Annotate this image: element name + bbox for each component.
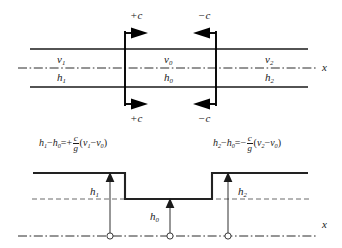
wave-arrow-bottom-left	[125, 99, 148, 110]
eq-right-sign: −	[240, 137, 246, 148]
wave-arrow-bottom-right	[193, 99, 216, 110]
eq-left-numerator: c	[73, 134, 80, 143]
datum-marker	[167, 233, 173, 239]
wave-arrow-top-left	[125, 28, 148, 39]
eq-right-fraction-c-over-g: cg	[247, 134, 254, 154]
depth-subscript-0: 0	[170, 77, 173, 84]
eq-right-h0-base: h	[227, 137, 232, 148]
eq-right-h0-sub: 0	[232, 142, 235, 149]
upper-axis-label-x: x	[322, 62, 327, 73]
profile-depth-label-h2: h2	[238, 186, 247, 197]
profile-h0-base: h	[150, 210, 156, 222]
depth-label-region-1: h1	[57, 72, 66, 83]
wave-speed-label-top-left: +c	[130, 10, 142, 21]
datum-marker	[225, 233, 231, 239]
eq-left-paren-close: )	[104, 137, 107, 148]
eq-left-h0-base: h	[53, 137, 58, 148]
upper-channel-diagram	[18, 28, 318, 110]
eq-right-numerator: c	[247, 134, 254, 143]
profile-depth-label-h1: h1	[90, 186, 99, 197]
depth-label-region-0: h0	[164, 72, 173, 83]
eq-left-v0-base: v	[96, 137, 100, 148]
depth-symbol-0: h	[164, 71, 170, 83]
eq-left-v0-sub: 0	[101, 142, 104, 149]
profile-h1-sub: 1	[96, 191, 99, 198]
water-surface-step-profile	[33, 173, 308, 199]
wave-arrow-top-right	[193, 28, 216, 39]
velocity-label-region-1: v1	[57, 54, 65, 65]
depth-symbol-1: h	[57, 71, 63, 83]
eq-right-h2-sub: 2	[218, 142, 221, 149]
profile-h0-sub: 0	[156, 216, 159, 223]
eq-right-v0-base: v	[270, 137, 274, 148]
eq-left-h0-sub: 0	[58, 142, 61, 149]
profile-h1-base: h	[90, 185, 96, 197]
depth-measure-h1	[106, 172, 115, 236]
velocity-subscript-2: 2	[270, 59, 273, 66]
depth-subscript-2: 2	[271, 77, 274, 84]
depth-measure-h0	[166, 198, 175, 236]
velocity-subscript-0: 0	[169, 59, 172, 66]
wave-speed-label-bottom-left: +c	[130, 113, 142, 124]
depth-label-region-2: h2	[265, 72, 274, 83]
equation-left: h1−h0=+cg(v1−v0)	[39, 134, 107, 154]
eq-left-denominator: g	[73, 143, 80, 153]
wave-speed-label-top-right: −c	[198, 10, 210, 21]
figure-canvas	[0, 0, 342, 248]
eq-right-v0-sub: 0	[275, 142, 278, 149]
profile-h2-base: h	[238, 185, 244, 197]
eq-right-denominator: g	[247, 143, 254, 153]
velocity-subscript-1: 1	[62, 59, 65, 66]
depth-measure-h2	[224, 172, 233, 236]
lower-profile-diagram	[18, 172, 318, 239]
depth-symbol-2: h	[265, 71, 271, 83]
eq-left-fraction-c-over-g: cg	[73, 134, 80, 154]
velocity-label-region-2: v2	[265, 54, 273, 65]
eq-left-sign: +	[66, 137, 72, 148]
velocity-label-region-0: v0	[164, 54, 172, 65]
depth-subscript-1: 1	[63, 77, 66, 84]
eq-right-paren-close: )	[278, 137, 281, 148]
wave-speed-label-bottom-right: −c	[198, 113, 210, 124]
eq-left-h1-sub: 1	[44, 142, 47, 149]
equation-right: h2−h0=−cg(v2−v0)	[213, 134, 281, 154]
lower-axis-label-x: x	[322, 219, 327, 230]
eq-right-v2-sub: 2	[261, 142, 264, 149]
datum-marker	[107, 233, 113, 239]
profile-depth-label-h0: h0	[150, 211, 159, 222]
profile-h2-sub: 2	[244, 191, 247, 198]
eq-left-v1-sub: 1	[87, 142, 90, 149]
